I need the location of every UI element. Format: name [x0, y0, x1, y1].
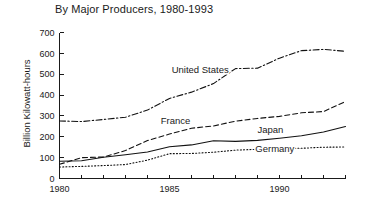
- x-tick-label: 1985: [159, 184, 179, 194]
- series-label-united-states: United States: [172, 64, 229, 75]
- plot-area: 0100200300400500600700 198019851990 Unit…: [0, 0, 368, 205]
- series-label-japan: Japan: [258, 124, 284, 135]
- y-tick-label: 600: [39, 49, 54, 59]
- series-labels-group: United StatesUnited StatesFranceFranceJa…: [161, 64, 295, 154]
- chart-figure: By Major Producers, 1980-1993 Billion Ki…: [0, 0, 368, 205]
- series-line-united-states: [60, 49, 346, 121]
- series-label-germany: Germany: [255, 143, 294, 154]
- x-tick-label: 1990: [269, 184, 289, 194]
- x-tick-labels: 198019851990: [49, 184, 289, 194]
- series-line-japan: [60, 127, 346, 162]
- y-tick-label: 500: [39, 69, 54, 79]
- y-tick-label: 400: [39, 90, 54, 100]
- y-tick-label: 300: [39, 111, 54, 121]
- y-tick-labels: 0100200300400500600700: [39, 28, 54, 184]
- x-tick-label: 1980: [49, 184, 69, 194]
- y-tick-label: 200: [39, 132, 54, 142]
- y-tick-label: 0: [49, 174, 54, 184]
- y-tick-label: 100: [39, 153, 54, 163]
- series-label-france: France: [161, 115, 191, 126]
- series-line-france: [60, 102, 346, 165]
- y-tick-label: 700: [39, 28, 54, 38]
